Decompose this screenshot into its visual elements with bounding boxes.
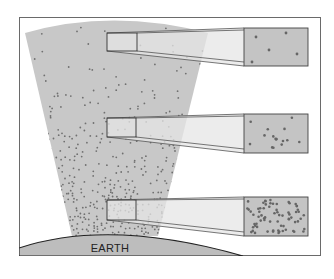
earth-label: EARTH	[78, 242, 142, 254]
magnified-view-high	[244, 28, 308, 66]
atmosphere-density-diagram	[0, 0, 334, 279]
magnified-view-low	[244, 197, 308, 236]
magnified-view-mid	[244, 114, 308, 153]
